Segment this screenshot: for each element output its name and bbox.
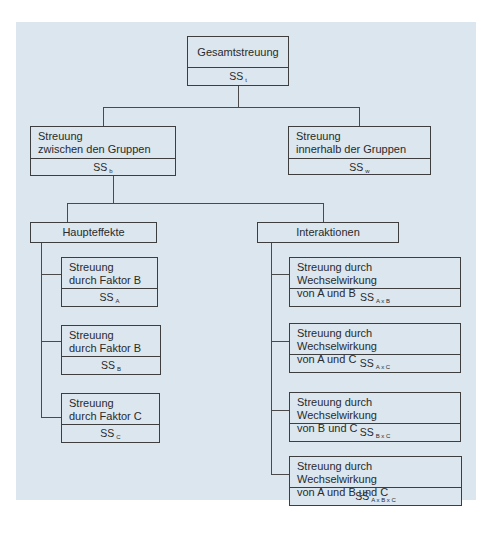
main-effect-label: Streuungdurch Faktor B xyxy=(62,326,160,357)
total-variance-label: Gesamtstreuung xyxy=(188,37,288,68)
total-variance-ss: SSt xyxy=(188,68,288,85)
connector xyxy=(103,107,360,108)
interaction-item: Streuung durch Wechselwirkungvon A und B… xyxy=(289,456,462,506)
connector xyxy=(113,175,114,204)
interaction-item: Streuung durch Wechselwirkungvon A und C… xyxy=(289,323,461,373)
connector xyxy=(323,203,324,223)
main-effect-item: Streuungdurch Faktor C SSC xyxy=(61,393,160,443)
within-groups-label: Streuunginnerhalb der Gruppen xyxy=(289,127,430,159)
total-variance-box: Gesamtstreuung SSt xyxy=(187,36,289,86)
main-effect-ss: SSC xyxy=(62,425,159,442)
connector xyxy=(41,274,61,275)
interactions-box: Interaktionen xyxy=(257,222,399,243)
connector xyxy=(238,86,239,108)
main-effect-label: Streuungdurch Faktor B xyxy=(62,258,157,289)
interaction-item: Streuung durch Wechselwirkungvon A und B… xyxy=(289,257,461,307)
main-effect-item: Streuungdurch Faktor B SSB xyxy=(61,325,161,375)
interaction-label: Streuung durch Wechselwirkungvon B und C xyxy=(290,393,460,424)
connector xyxy=(67,203,68,223)
connector xyxy=(103,107,104,127)
main-effect-item: Streuungdurch Faktor B SSA xyxy=(61,257,158,307)
connector xyxy=(67,203,324,204)
between-groups-box: Streuungzwischen den Gruppen SSb xyxy=(30,126,176,176)
connector xyxy=(271,474,289,475)
connector xyxy=(271,410,289,411)
connector xyxy=(41,341,61,342)
connector xyxy=(41,243,42,418)
main-effects-label: Haupteffekte xyxy=(62,226,124,238)
main-effect-ss: SSA xyxy=(62,289,157,306)
main-effect-label: Streuungdurch Faktor C xyxy=(62,394,159,425)
between-groups-label: Streuungzwischen den Gruppen xyxy=(31,127,175,159)
connector xyxy=(359,107,360,127)
main-effect-ss: SSB xyxy=(62,357,160,374)
interaction-item: Streuung durch Wechselwirkungvon B und C… xyxy=(289,392,461,442)
connector xyxy=(41,417,61,418)
within-groups-box: Streuunginnerhalb der Gruppen SSw xyxy=(288,126,431,175)
interaction-label: Streuung durch Wechselwirkungvon A und C xyxy=(290,324,460,355)
interactions-label: Interaktionen xyxy=(296,226,360,238)
main-effects-box: Haupteffekte xyxy=(30,222,157,243)
connector xyxy=(271,274,289,275)
connector xyxy=(271,243,272,475)
interaction-label: Streuung durch Wechselwirkungvon A und B… xyxy=(290,457,461,488)
interaction-label: Streuung durch Wechselwirkungvon A und B xyxy=(290,258,460,289)
connector xyxy=(271,341,289,342)
within-groups-ss: SSw xyxy=(289,159,430,175)
between-groups-ss: SSb xyxy=(31,159,175,175)
